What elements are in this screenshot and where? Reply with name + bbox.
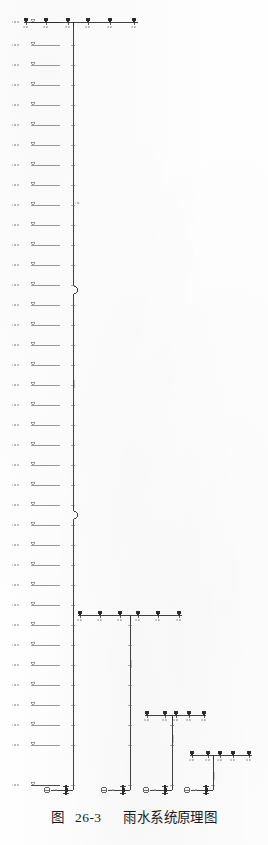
pipe-size-label	[205, 759, 211, 761]
elevation-label	[12, 484, 19, 486]
elevation-tick-icon	[31, 242, 35, 244]
elevation-tick-icon	[31, 742, 35, 744]
elevation-tick-icon	[31, 342, 35, 344]
pipe-size-label	[85, 26, 91, 28]
roof-drain-icon	[98, 611, 102, 618]
pipe-size-label	[176, 619, 182, 621]
roof-drain-icon	[156, 611, 160, 618]
elevation-label	[12, 144, 19, 146]
dim-note	[214, 778, 215, 780]
elevation-tick-icon	[31, 502, 35, 504]
floor-elevation-ladder	[12, 19, 60, 785]
elevation-label	[12, 64, 19, 66]
elevation-label	[12, 84, 19, 86]
elevation-tick-icon	[31, 722, 35, 724]
elevation-label	[12, 244, 19, 246]
riser-group	[71, 22, 215, 790]
elevation-label	[12, 704, 19, 706]
dim-note	[74, 384, 75, 386]
dim-note	[131, 662, 132, 664]
elevation-tick-icon	[31, 382, 35, 384]
rainwater-stack-2	[128, 615, 131, 790]
elevation-tick-icon	[31, 282, 35, 284]
elevation-label	[12, 544, 19, 546]
roof-drain-icon	[187, 711, 191, 718]
dim-note	[74, 380, 75, 382]
pipe-size-label	[131, 26, 137, 28]
dim-note	[74, 386, 75, 388]
elevation-tick-icon	[31, 622, 35, 624]
elevation-tick-icon	[31, 682, 35, 684]
pipe-size-label	[217, 759, 223, 761]
cleanout-icon	[101, 787, 107, 793]
elevation-label	[12, 21, 19, 23]
elevation-label	[12, 304, 19, 306]
caption-title: 雨水系统原理图	[123, 810, 217, 825]
elevation-label	[12, 224, 19, 226]
elevation-tick-icon	[31, 82, 35, 84]
pipe-size-label	[230, 759, 236, 761]
elevation-label	[12, 344, 19, 346]
dim-note	[214, 772, 215, 774]
cleanout-icon	[184, 787, 190, 793]
elevation-label	[12, 404, 19, 406]
roof-drain-icon	[136, 611, 140, 618]
elevation-tick-icon	[31, 42, 35, 44]
elevation-label	[12, 604, 19, 606]
roof-drain-icon	[132, 18, 136, 25]
dim-note	[131, 664, 132, 666]
base-label	[110, 789, 114, 791]
elevation-tick-icon	[31, 642, 35, 644]
roof-drain-icon	[206, 751, 210, 758]
elevation-tick-icon	[31, 602, 35, 604]
elevation-tick-icon	[31, 562, 35, 564]
elevation-tick-icon	[31, 402, 35, 404]
elevation-tick-icon	[31, 182, 35, 184]
elevation-tick-icon	[31, 202, 35, 204]
riser-3-base	[143, 785, 172, 795]
dim-note	[214, 776, 215, 778]
elevation-label	[12, 284, 19, 286]
elevation-label	[12, 44, 19, 46]
elevation-label	[12, 424, 19, 426]
elevation-label	[12, 564, 19, 566]
riser-tag	[75, 202, 79, 204]
riser-4-roof-branch	[189, 751, 252, 761]
roof-drain-icon	[24, 18, 28, 25]
elevation-label	[12, 204, 19, 206]
elevation-tick-icon	[31, 362, 35, 364]
base-label	[193, 789, 197, 791]
elevation-label	[12, 644, 19, 646]
dim-note	[131, 660, 132, 662]
riser-offset-jog	[73, 509, 78, 521]
riser-diagram-canvas	[0, 0, 268, 845]
riser-2-base	[101, 785, 130, 795]
cleanout-icon	[44, 787, 50, 793]
pipe-size-label	[186, 719, 192, 721]
rainwater-stack-3	[170, 715, 173, 790]
elevation-label	[12, 444, 19, 446]
dim-note	[131, 666, 132, 668]
riser-base-group	[44, 202, 213, 795]
pipe-size-label	[246, 759, 252, 761]
elevation-tick-icon	[31, 102, 35, 104]
elevation-label	[12, 684, 19, 686]
pipe-size-label	[162, 719, 168, 721]
elevation-tick-icon	[31, 422, 35, 424]
dim-note	[173, 739, 174, 741]
dim-note	[173, 735, 174, 737]
pipe-size-label	[65, 26, 71, 28]
elevation-tick-icon	[31, 19, 35, 21]
elevation-label	[12, 124, 19, 126]
pipe-size-label	[77, 619, 83, 621]
elevation-tick-icon	[31, 62, 35, 64]
roof-drain-icon	[78, 611, 82, 618]
elevation-label	[12, 744, 19, 746]
elevation-label	[12, 104, 19, 106]
base-label	[152, 789, 156, 791]
pipe-size-label	[97, 619, 103, 621]
elevation-label	[12, 364, 19, 366]
riser-offset-jog	[73, 284, 78, 296]
dim-note	[173, 737, 174, 739]
elevation-label	[12, 784, 19, 786]
